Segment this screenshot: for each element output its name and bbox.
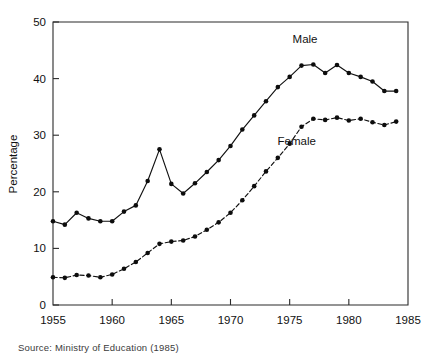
y-axis-tick-labels: 01020304050 [33, 16, 46, 311]
data-point-female [122, 266, 127, 271]
data-point-male [145, 179, 150, 184]
series-annotations: MaleFemale [278, 33, 318, 147]
x-tick-label: 1955 [40, 314, 66, 326]
data-point-female [228, 210, 233, 215]
data-point-female [335, 115, 340, 120]
figure-container: Percentage 01020304050 19551960196519701… [0, 0, 434, 356]
y-tick-label: 40 [33, 73, 46, 85]
data-point-female [276, 156, 281, 161]
x-tick-label: 1975 [277, 314, 303, 326]
data-point-female [240, 198, 245, 203]
data-point-male [51, 219, 56, 224]
data-point-male [110, 219, 115, 224]
data-point-male [63, 222, 68, 227]
data-point-male [240, 127, 245, 132]
y-tick-label: 20 [33, 186, 46, 198]
data-point-female [74, 273, 79, 278]
y-axis-ticks [53, 22, 59, 305]
data-point-male [323, 71, 328, 76]
x-tick-label: 1965 [159, 314, 185, 326]
data-point-female [358, 116, 363, 121]
x-axis-tick-labels: 1955196019651970197519801985 [40, 314, 421, 326]
data-point-male [169, 182, 174, 187]
data-point-female [110, 272, 115, 277]
data-point-female [382, 123, 387, 128]
data-point-male [86, 216, 91, 221]
y-tick-label: 0 [40, 299, 46, 311]
data-point-female [157, 242, 162, 247]
data-point-female [193, 234, 198, 239]
data-point-female [394, 119, 399, 124]
y-tick-label: 30 [33, 129, 46, 141]
data-point-female [51, 275, 56, 280]
source-note: Source: Ministry of Education (1985) [18, 342, 179, 353]
data-point-male [358, 75, 363, 80]
data-point-male [157, 147, 162, 152]
data-point-male [264, 99, 269, 104]
data-point-female [252, 184, 257, 189]
y-axis-title: Percentage [7, 135, 19, 194]
data-point-male [228, 144, 233, 149]
data-point-female [311, 116, 316, 121]
data-point-female [216, 220, 221, 225]
data-point-male [193, 181, 198, 186]
data-point-male [299, 63, 304, 68]
data-point-male [311, 62, 316, 67]
series-lines [53, 64, 396, 277]
data-point-male [98, 219, 103, 224]
data-point-male [181, 191, 186, 196]
data-point-female [264, 169, 269, 174]
series-line-female [53, 118, 396, 278]
x-tick-label: 1970 [218, 314, 244, 326]
data-point-male [205, 170, 210, 175]
data-point-male [252, 113, 257, 118]
data-point-male [216, 158, 221, 163]
data-point-male [370, 79, 375, 84]
x-tick-label: 1980 [336, 314, 362, 326]
series-label-female: Female [278, 135, 316, 147]
data-point-female [98, 275, 103, 280]
data-point-male [347, 71, 352, 76]
data-point-female [323, 118, 328, 123]
x-axis-ticks [112, 299, 349, 305]
y-tick-label: 10 [33, 242, 46, 254]
x-tick-label: 1960 [99, 314, 125, 326]
data-point-male [287, 75, 292, 80]
series-label-male: Male [293, 33, 318, 45]
data-point-female [86, 273, 91, 278]
y-tick-label: 50 [33, 16, 46, 28]
data-point-male [122, 209, 127, 214]
series-line-male [53, 64, 396, 224]
data-point-female [181, 238, 186, 243]
data-point-female [347, 118, 352, 123]
series-markers [51, 62, 399, 280]
x-tick-label: 1985 [395, 314, 421, 326]
data-point-male [134, 203, 139, 208]
data-point-female [169, 239, 174, 244]
data-point-male [394, 89, 399, 94]
line-chart: Percentage 01020304050 19551960196519701… [0, 0, 434, 356]
data-point-female [63, 276, 68, 281]
data-point-female [299, 124, 304, 129]
data-point-female [370, 120, 375, 125]
data-point-male [335, 63, 340, 68]
data-point-female [145, 251, 150, 256]
data-point-male [74, 210, 79, 215]
data-point-male [276, 85, 281, 90]
data-point-female [205, 227, 210, 232]
data-point-female [134, 260, 139, 265]
data-point-male [382, 89, 387, 94]
plot-frame [53, 22, 408, 305]
